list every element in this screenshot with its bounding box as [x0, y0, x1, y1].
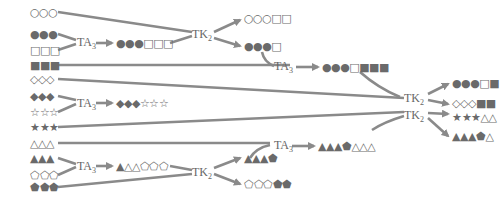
arrow-p1-tk1 — [170, 36, 192, 43]
output-o3: ★★★△△ — [452, 112, 496, 123]
arrow-in2-ta1 — [58, 34, 76, 40]
arrow-in8-tk4 — [58, 112, 404, 127]
arrow-p9-tk4 — [372, 116, 404, 130]
input-open-triangles: △△△ — [30, 138, 54, 149]
enzyme-tk2-4: TK2 — [192, 166, 212, 183]
output-o2: ◇◇◇■■ — [452, 98, 496, 109]
input-filled-stars: ★★★ — [30, 122, 59, 133]
input-open-diamonds: ◇◇◇ — [30, 74, 54, 85]
arrow-in6-ta3 — [58, 96, 76, 100]
arrow-tk3-o2 — [428, 100, 448, 104]
input-open-pentagons: ⬠⬠⬠ — [30, 170, 59, 181]
product-p7: ▲▲▲⬟ — [244, 153, 277, 164]
input-open-squares: □□□ — [30, 45, 60, 56]
arrow-in3-ta1 — [58, 44, 76, 50]
arrow-layer — [0, 0, 503, 204]
input-filled-squares: ■■■ — [30, 60, 60, 71]
input-filled-triangles: ▲▲▲ — [30, 153, 54, 164]
enzyme-ta3-1: TA3 — [77, 36, 96, 53]
enzyme-tk2-1: TK2 — [192, 28, 212, 45]
input-filled-pentagons: ⬟⬟⬟ — [30, 182, 59, 193]
output-o4: ▲▲▲⬟△ — [452, 131, 493, 142]
input-filled-diamonds: ◆◆◆ — [30, 91, 54, 102]
enzyme-ta3-5: TA3 — [77, 160, 96, 177]
arrow-in10-ta-b — [58, 158, 76, 164]
input-open-stars: ☆☆☆ — [30, 107, 59, 118]
product-p3: ●●●□ — [244, 41, 281, 52]
enzyme-tk2-3: TK2 — [404, 109, 424, 126]
arrow-in11-ta-b — [58, 167, 76, 175]
arrow-tk4-o4 — [428, 118, 448, 136]
input-filled-circles: ●●● — [30, 29, 57, 40]
arrow-tk1-p2 — [214, 20, 240, 32]
arrow-in7-ta3 — [58, 104, 76, 112]
product-p2: ○○○□□ — [244, 13, 291, 24]
input-open-circles: ○○○ — [30, 7, 57, 18]
enzyme-ta3-2: TA3 — [274, 60, 293, 77]
arrow-tk-p8 — [214, 174, 240, 184]
arrow-in5-tk3 — [58, 79, 404, 98]
enzyme-ta3-3: TA3 — [77, 97, 96, 114]
product-p9: ▲▲▲⬟△△△ — [318, 141, 375, 152]
product-p5: ◆◆◆☆☆☆ — [116, 98, 168, 109]
enzyme-tk2-2: TK2 — [404, 92, 424, 109]
arrow-tk-p7 — [214, 158, 240, 168]
arrow-p6-tk — [170, 166, 192, 170]
product-p4: ●●●□■■■ — [322, 62, 389, 73]
product-p1: ●●●□□□ — [116, 38, 173, 49]
arrow-in1-tk1 — [58, 12, 192, 32]
product-p8: ⬠⬠⬠⬟⬟ — [244, 179, 292, 190]
arrow-tk1-p3 — [214, 38, 240, 46]
arrow-tk4-o3 — [428, 113, 448, 114]
arrow-tk3-o1 — [428, 84, 448, 94]
arrow-p4-tk3 — [360, 72, 400, 97]
output-o1: ●●●□■ — [452, 78, 499, 89]
product-p6: ▲△△⬠⬠⬠ — [116, 161, 168, 172]
